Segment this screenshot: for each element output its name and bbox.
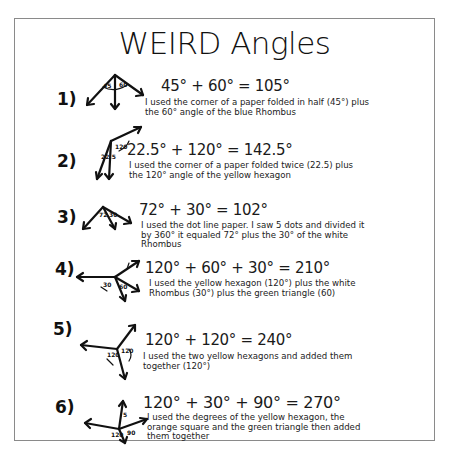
figure-label: 120 (115, 143, 128, 150)
explanation: I used the yellow hexagon (120°) plus th… (149, 279, 369, 298)
explanation: I used the two yellow hexagons and added… (143, 352, 373, 371)
figure-label: 120 (107, 351, 120, 358)
worksheet: WEIRD Angles 1) 45 60 45° + 60° = 105° I… (14, 18, 435, 441)
figure-label: 90 (127, 429, 135, 436)
equation: 120° + 120° = 240° (145, 331, 292, 349)
equation: 22.5° + 120° = 142.5° (127, 141, 292, 159)
figure-label: 120 (121, 347, 134, 354)
worksheet-title: WEIRD Angles (15, 25, 434, 61)
figure-label: 72 (99, 211, 107, 218)
angle-figure-4: 30 60 (67, 257, 157, 317)
equation: 120° + 60° + 30° = 210° (145, 259, 330, 277)
figure-label: 5 (123, 411, 127, 418)
equation: 45° + 60° = 105° (161, 77, 290, 95)
figure-label: 30 (103, 281, 111, 288)
figure-label: 60 (119, 81, 127, 88)
figure-label: 22.5 (101, 153, 116, 160)
explanation: I used the corner of a paper folded in h… (145, 98, 375, 117)
figure-label: 30 (109, 211, 117, 218)
equation: 72° + 30° = 102° (139, 201, 268, 219)
item-number: 2) (57, 151, 77, 171)
explanation: I used the dot line paper. I saw 5 dots … (141, 221, 371, 250)
figure-label: 120 (111, 431, 124, 438)
figure-label: 60 (119, 283, 127, 290)
explanation: I used the corner of a paper folded twic… (129, 161, 359, 180)
explanation: I used the degrees of the yellow hexagon… (147, 413, 377, 442)
figure-label: 45 (103, 82, 111, 89)
equation: 120° + 30° + 90° = 270° (143, 393, 341, 412)
